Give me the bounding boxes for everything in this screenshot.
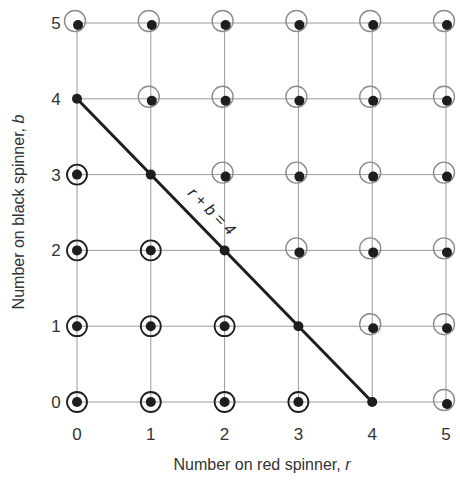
sample-point [434, 314, 455, 335]
y-axis-label-text: Number on black spinner, [10, 124, 27, 310]
dot-marker [147, 20, 157, 30]
sample-point [138, 11, 159, 32]
dot-marker [368, 96, 378, 106]
dot-marker [72, 170, 82, 180]
line-label: r + b = 4 [185, 184, 239, 238]
dot-marker [368, 323, 378, 333]
sample-point [72, 94, 82, 104]
y-tick-label: 1 [51, 317, 60, 336]
sample-point [138, 86, 159, 107]
dot-marker [368, 20, 378, 30]
y-tick-label: 2 [51, 241, 60, 260]
dot-marker [72, 245, 82, 255]
dot-marker [221, 20, 231, 30]
dot-marker [146, 245, 156, 255]
dot-marker [442, 399, 452, 409]
dot-marker [368, 247, 378, 257]
dot-marker [442, 323, 452, 333]
dot-marker [72, 321, 82, 331]
dot-marker [220, 321, 230, 331]
y-tick-label: 3 [51, 166, 60, 185]
sample-point [434, 238, 455, 259]
dot-marker [220, 245, 230, 255]
dot-marker [220, 397, 230, 407]
sample-point [360, 314, 381, 335]
sample-point [212, 162, 233, 183]
dot-marker [72, 397, 82, 407]
sample-point [434, 11, 455, 32]
dot-marker [442, 247, 452, 257]
dot-marker [294, 20, 304, 30]
sample-point [434, 390, 455, 411]
x-axis-label-text: Number on red spinner, [174, 456, 346, 473]
y-axis-label: Number on black spinner, b [10, 115, 27, 310]
sample-point [360, 238, 381, 259]
dot-marker [221, 96, 231, 106]
sample-point [286, 11, 307, 32]
dot-marker [147, 96, 157, 106]
sample-point [286, 86, 307, 107]
sample-point [293, 321, 303, 331]
sample-point [434, 86, 455, 107]
sample-point [360, 86, 381, 107]
dot-marker [368, 172, 378, 182]
x-tick-label: 3 [294, 425, 303, 444]
dot-marker [294, 172, 304, 182]
sample-point [220, 245, 230, 255]
sample-point [286, 238, 307, 259]
y-axis-label-var: b [10, 115, 27, 124]
sample-point [434, 162, 455, 183]
dot-marker [294, 96, 304, 106]
dot-marker [221, 172, 231, 182]
y-tick-label: 0 [51, 393, 60, 412]
x-tick-label: 2 [220, 425, 229, 444]
x-tick-label: 0 [72, 425, 81, 444]
x-tick-label: 1 [146, 425, 155, 444]
x-tick-label: 4 [367, 425, 376, 444]
grid-lines [77, 23, 446, 402]
x-axis-label: Number on red spinner, r [174, 456, 352, 473]
dot-marker [73, 20, 83, 30]
dot-marker [293, 321, 303, 331]
y-tick-label: 4 [51, 90, 60, 109]
sample-point [212, 11, 233, 32]
dot-marker [293, 397, 303, 407]
dot-marker [146, 321, 156, 331]
sample-point [146, 170, 156, 180]
dot-marker [294, 247, 304, 257]
x-axis-ticks: 012345 [72, 425, 450, 444]
x-tick-label: 5 [441, 425, 450, 444]
sample-point [286, 162, 307, 183]
dot-marker [442, 96, 452, 106]
dot-marker [442, 172, 452, 182]
dot-marker [72, 94, 82, 104]
sample-point [367, 397, 377, 407]
dot-marker [146, 397, 156, 407]
sample-point [360, 11, 381, 32]
x-axis-label-var: r [345, 456, 351, 473]
sample-point [212, 86, 233, 107]
line-label-text: r + b = 4 [185, 184, 239, 238]
dot-marker [367, 397, 377, 407]
sample-point [65, 11, 86, 32]
dot-marker [442, 20, 452, 30]
spinner-sample-space-chart: 012345 012345 r + b = 4 Number on red sp… [0, 0, 460, 488]
y-axis-ticks: 012345 [51, 14, 60, 412]
sample-point [360, 162, 381, 183]
dot-marker [146, 170, 156, 180]
y-tick-label: 5 [51, 14, 60, 33]
data-points [65, 11, 455, 413]
